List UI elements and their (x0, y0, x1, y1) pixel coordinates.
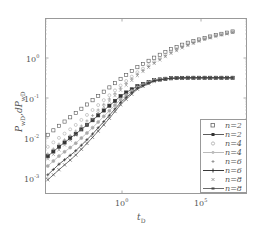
legend-item-n4-derivative: n=4 (201, 148, 247, 157)
line-filled-square-marker-icon (202, 130, 224, 139)
y-tick-label-1: 10-1 (24, 93, 39, 104)
x-tick-label-0: 100 (115, 197, 128, 208)
line-circle-marker-icon (202, 148, 224, 157)
open-circle-marker-icon (202, 139, 224, 148)
legend-item-n2-pressure: n=2 (201, 121, 247, 130)
legend-item-n4-pressure: n=4 (201, 139, 247, 148)
plus-marker-icon (202, 157, 224, 166)
legend-item-n6-pressure: n=6 (201, 157, 247, 166)
x-axis-label: tD (137, 212, 145, 224)
legend-item-n2-derivative: n=2 (201, 130, 247, 139)
legend-item-n8-pressure: n=8 (201, 175, 247, 184)
legend-item-n8-derivative: n=8 (201, 184, 247, 193)
x-marker-icon (202, 175, 224, 184)
y-tick-label-3: 10-3 (24, 173, 39, 184)
legend-item-n6-derivative: n=6 (201, 166, 247, 175)
line-x-marker-icon (202, 184, 224, 193)
chart-canvas (0, 0, 259, 230)
y-tick-label-0: 100 (26, 53, 39, 64)
open-square-marker-icon (202, 121, 224, 130)
x-tick-label-1: 105 (194, 197, 207, 208)
y-axis-label: PwD,dPwD (14, 91, 26, 132)
line-plus-marker-icon (202, 166, 224, 175)
y-tick-label-2: 10-2 (24, 133, 39, 144)
chart-legend: n=2 n=2 n=4 n=4 n=6 n=6 n=8 n=8 (200, 119, 247, 193)
